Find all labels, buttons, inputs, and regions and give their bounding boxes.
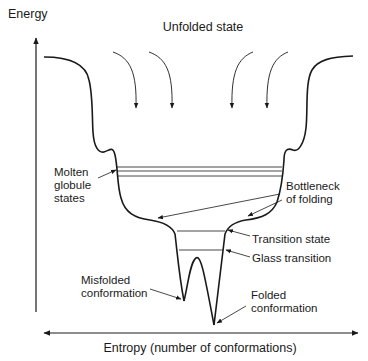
glass-transition-pointer — [226, 250, 250, 257]
molten-globule-pointer — [98, 170, 116, 178]
arrow-right-1 — [232, 52, 253, 108]
glass-transition-label: Glass transition — [252, 252, 331, 264]
arrow-right-2 — [267, 52, 288, 108]
bottleneck-pointer-left — [158, 194, 280, 218]
misfolded-label: Misfolded conformation — [81, 274, 147, 299]
folding-direction-arrows — [113, 52, 288, 108]
arrow-left-2 — [149, 52, 172, 108]
arrow-left-1 — [113, 52, 136, 108]
funnel-inner-peak — [184, 258, 214, 325]
folded-pointer — [217, 306, 246, 323]
bottleneck-label: Bottleneck of folding — [286, 180, 343, 205]
entropy-axis-label: Entropy (number of conformations) — [103, 341, 296, 355]
diagram-canvas: Energy Entropy (number of conformations)… — [0, 0, 368, 361]
misfolded-pointer — [150, 289, 181, 299]
folding-funnel-diagram: Energy Entropy (number of conformations)… — [0, 0, 368, 361]
bottleneck-pointer-right — [248, 200, 282, 216]
energy-axis-label: Energy — [8, 7, 48, 21]
transition-state-pointer — [228, 230, 250, 236]
folded-label: Folded conformation — [251, 289, 317, 314]
molten-globule-levels — [117, 167, 282, 176]
transition-state-label: Transition state — [252, 233, 330, 245]
molten-globule-label: Molten globule states — [54, 166, 94, 204]
unfolded-state-label: Unfolded state — [163, 20, 244, 34]
